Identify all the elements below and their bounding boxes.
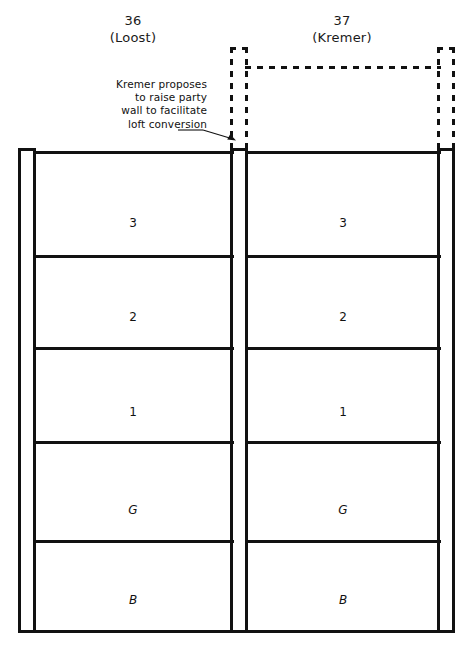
party-wall-section-diagram: 36 (Loost) 37 (Kremer) Kremer proposes t… [0,0,471,650]
proposed-loft-ceiling-line [245,66,441,69]
annotation-line: wall to facilitate [55,104,207,117]
right-floor-label-G: G [323,503,363,517]
left-floor-label-2: 2 [113,310,153,324]
property-owner: (Loost) [63,29,203,46]
annotation-line: loft conversion [55,118,207,131]
property-number: 36 [63,12,203,29]
annotation-line: Kremer proposes [55,78,207,91]
proposed-party-wall-cap-top [230,47,248,50]
left-floor-slab-G-B [33,540,234,543]
proposed-party-wall-dashed-outer-left [245,47,248,148]
left-house-roof-line [33,151,234,154]
right-floor-slab-1-G [245,441,441,444]
left-outer-wall-outer-face [18,148,21,633]
right-floor-slab-3-2 [245,255,441,258]
proposed-flank-wall-dashed-inner-right [437,47,440,148]
left-floor-slab-3-2 [33,255,234,258]
left-floor-slab-2-1 [33,347,234,350]
proposed-flank-wall-dashed-outer-right [452,47,455,148]
right-floor-label-2: 2 [323,310,363,324]
left-floor-label-1: 1 [113,405,153,419]
base-ground-line [18,630,455,633]
party-wall-left-face [230,148,233,633]
property-label-36: 36 (Loost) [63,12,203,46]
proposed-party-wall-dashed-inner-left [230,47,233,148]
annotation-line: to raise party [55,91,207,104]
party-wall-right-face [245,148,248,633]
proposed-flank-wall-cap-top [437,47,455,50]
left-floor-label-B: B [113,593,153,607]
right-outer-wall-outer-face [452,148,455,633]
right-floor-label-B: B [323,593,363,607]
left-floor-label-G: G [113,503,153,517]
left-outer-wall-inner-face [33,148,36,633]
right-floor-label-3: 3 [323,216,363,230]
property-label-37: 37 (Kremer) [272,12,412,46]
right-floor-slab-G-B [245,540,441,543]
right-floor-label-1: 1 [323,405,363,419]
right-floor-slab-2-1 [245,347,441,350]
property-owner: (Kremer) [272,29,412,46]
property-number: 37 [272,12,412,29]
left-floor-label-3: 3 [113,216,153,230]
right-outer-wall-inner-face [437,148,440,633]
annotation-kremer-proposal: Kremer proposes to raise party wall to f… [55,78,207,131]
right-house-roof-line [245,151,441,154]
left-floor-slab-1-G [33,441,234,444]
